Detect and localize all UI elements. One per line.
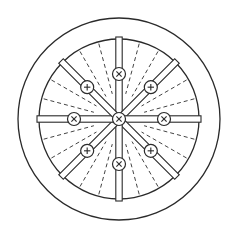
- dashed-guide-line: [126, 144, 139, 194]
- dashed-guide-line: [44, 126, 94, 139]
- dashed-guide-line: [144, 99, 194, 112]
- dashed-guide-line: [144, 126, 194, 139]
- wheel-diagram: [0, 0, 234, 237]
- dashed-guide-line: [99, 144, 112, 194]
- dashed-guide-line: [99, 44, 112, 94]
- wheel-svg: [0, 0, 234, 237]
- dashed-guide-line: [44, 99, 94, 112]
- dashed-guide-line: [126, 44, 139, 94]
